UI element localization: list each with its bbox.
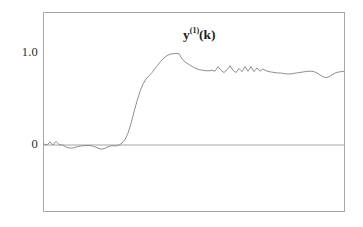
figure-container: 1.0 0 y(1)(k) — [0, 0, 363, 227]
line-chart — [0, 0, 363, 227]
series-title-label: y(1)(k) — [183, 26, 216, 43]
series-superscript: (1) — [190, 26, 199, 35]
series-argument: (k) — [199, 27, 216, 42]
series-base-symbol: y — [183, 27, 190, 42]
y-axis-tick-label-1: 1.0 — [12, 45, 38, 60]
y-axis-tick-label-0: 0 — [12, 137, 38, 152]
chart-background — [0, 0, 363, 227]
